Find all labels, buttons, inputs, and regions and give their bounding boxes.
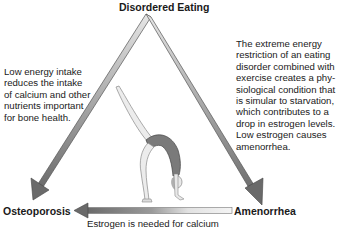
description-right: The extreme energy restriction of an eat… <box>236 38 344 152</box>
description-line: is simular to starvation, <box>236 95 344 106</box>
bottom-caption: Estrogen is needed for calcium <box>87 218 219 229</box>
node-osteoporosis: Osteoporosis <box>3 205 71 217</box>
description-line: drop in estrogen levels. <box>236 118 344 129</box>
description-line: which contributes to a <box>236 106 344 117</box>
description-line: amenorrhea. <box>236 141 344 152</box>
description-line: exercise creates a phy- <box>236 72 344 83</box>
node-amenorrhea: Amenorrhea <box>234 205 296 217</box>
description-line: for bone health. <box>4 112 102 123</box>
description-line: restriction of an eating <box>236 49 344 60</box>
description-left: Low energy intake reduces the intake of … <box>4 66 102 123</box>
description-line: disorder combined with <box>236 61 344 72</box>
description-line: siological condition that <box>236 84 344 95</box>
node-disordered-eating: Disordered Eating <box>119 1 209 13</box>
description-line: of calcium and other <box>4 89 102 100</box>
arrow-left-icon <box>74 203 232 218</box>
gymnast-illustration <box>116 86 184 202</box>
description-line: The extreme energy <box>236 38 344 49</box>
description-line: Low energy intake <box>4 66 102 77</box>
description-line: Low estrogen causes <box>236 129 344 140</box>
description-line: reduces the intake <box>4 77 102 88</box>
description-line: nutrients important <box>4 100 102 111</box>
